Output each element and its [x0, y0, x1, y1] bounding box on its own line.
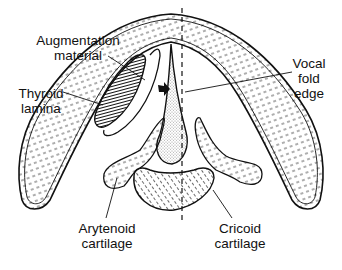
label-line: Arytenoid [72, 221, 142, 236]
label-line: edge [286, 86, 332, 101]
label-thyroid-lamina: Thyroid lamina [16, 86, 66, 116]
label-line: lamina [16, 101, 66, 116]
leader-cricoid [213, 190, 232, 218]
right-vocal-fold [157, 44, 187, 164]
label-line: material [30, 48, 126, 63]
label-line: Augmentation [30, 33, 126, 48]
label-cricoid-cartilage: Cricoid cartilage [208, 221, 272, 251]
label-line: Cricoid [208, 221, 272, 236]
label-arytenoid-cartilage: Arytenoid cartilage [72, 221, 142, 251]
label-line: fold [286, 71, 332, 86]
label-line: cartilage [72, 236, 142, 251]
label-line: Thyroid [16, 86, 66, 101]
label-vocal-fold-edge: Vocal fold edge [286, 56, 332, 101]
label-augmentation-material: Augmentation material [30, 33, 126, 63]
label-line: Vocal [286, 56, 332, 71]
label-line: cartilage [208, 236, 272, 251]
cricoid-cartilage [134, 168, 214, 210]
